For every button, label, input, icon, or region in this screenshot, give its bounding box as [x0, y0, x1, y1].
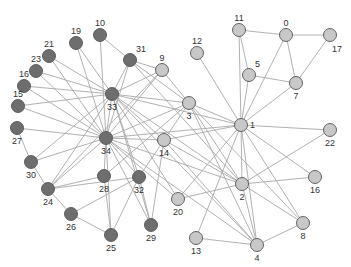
node-label-34: 34	[101, 146, 111, 156]
node-label-29: 29	[146, 233, 156, 243]
node-label-30: 30	[26, 170, 36, 180]
node-8[interactable]	[297, 217, 310, 230]
edge-15-33	[18, 94, 112, 106]
node-7[interactable]	[290, 77, 303, 90]
edge-5-7	[249, 75, 296, 83]
node-11[interactable]	[233, 24, 246, 37]
node-17[interactable]	[324, 29, 337, 42]
node-label-3: 3	[186, 111, 191, 121]
node-10[interactable]	[94, 29, 107, 42]
node-30[interactable]	[25, 156, 38, 169]
edge-12-1	[197, 53, 241, 125]
node-26[interactable]	[65, 208, 78, 221]
edge-4-33	[112, 94, 257, 245]
node-label-28: 28	[99, 184, 109, 194]
node-28[interactable]	[98, 170, 111, 183]
edge-1-8	[241, 125, 303, 223]
node-label-16: 16	[19, 69, 29, 79]
edge-2-16	[242, 177, 315, 184]
edge-11-1	[239, 30, 241, 125]
node-14[interactable]	[158, 134, 171, 147]
node-label-4: 4	[254, 253, 259, 263]
edge-3-34	[106, 103, 189, 138]
edge-0-7	[286, 35, 296, 83]
node-2[interactable]	[236, 178, 249, 191]
node-label-24: 24	[43, 197, 53, 207]
edge-30-33	[31, 94, 112, 162]
node-5[interactable]	[243, 69, 256, 82]
node-label-26: 26	[66, 222, 76, 232]
node-29[interactable]	[145, 219, 158, 232]
labels-layer: 0123457891112131416172022101519212316242…	[12, 13, 342, 263]
node-31[interactable]	[124, 54, 137, 67]
edge-9-33	[112, 70, 162, 94]
node-label-23: 23	[31, 54, 41, 64]
node-25[interactable]	[105, 229, 118, 242]
node-22[interactable]	[324, 124, 337, 137]
node-15[interactable]	[12, 100, 25, 113]
node-label-20: 20	[173, 207, 183, 217]
node-label-25: 25	[106, 243, 116, 253]
node-19[interactable]	[70, 37, 83, 50]
node-0[interactable]	[280, 29, 293, 42]
node-32[interactable]	[133, 171, 146, 184]
node-label-7: 7	[293, 91, 298, 101]
node-label-33: 33	[107, 102, 117, 112]
node-34[interactable]	[100, 132, 113, 145]
node-label-11: 11	[234, 13, 243, 23]
edge-19-33	[76, 43, 112, 94]
node-label-10: 10	[95, 18, 105, 28]
node-24[interactable]	[42, 183, 55, 196]
node-label-15: 15	[13, 89, 23, 99]
node-21[interactable]	[43, 50, 56, 63]
node-4[interactable]	[251, 239, 264, 252]
edge-7-1	[241, 83, 296, 125]
node-label-14: 14	[159, 148, 169, 158]
node-label-21: 21	[44, 39, 54, 49]
network-graph: 0123457891112131416172022101519212316242…	[0, 0, 351, 267]
node-16[interactable]	[309, 171, 322, 184]
node-13[interactable]	[190, 232, 203, 245]
edge-28-3	[104, 103, 189, 176]
edge-21-34	[49, 56, 106, 138]
node-23[interactable]	[30, 65, 43, 78]
edge-4-34	[106, 138, 257, 245]
node-label-32: 32	[134, 185, 144, 195]
node-label-13: 13	[191, 246, 201, 256]
node-33[interactable]	[106, 88, 119, 101]
nodes-layer	[11, 24, 337, 252]
node-label-5: 5	[255, 59, 260, 69]
node-label-16: 16	[310, 185, 320, 195]
node-20[interactable]	[172, 193, 185, 206]
edge-4-8	[257, 223, 303, 245]
node-label-12: 12	[192, 36, 202, 46]
edge-1-33	[112, 94, 241, 125]
node-label-9: 9	[159, 53, 164, 63]
node-27[interactable]	[11, 122, 24, 135]
node-label-27: 27	[12, 136, 22, 146]
node-label-31: 31	[136, 44, 146, 54]
edge-0-11	[239, 30, 286, 35]
node-12[interactable]	[191, 47, 204, 60]
node-label-1: 1	[250, 120, 255, 130]
edge-20-33	[112, 94, 178, 199]
edge-7-17	[296, 35, 330, 83]
node-1[interactable]	[235, 119, 248, 132]
node-label-0: 0	[283, 18, 288, 28]
node-3[interactable]	[183, 97, 196, 110]
node-label-19: 19	[71, 26, 81, 36]
node-9[interactable]	[156, 64, 169, 77]
node-label-8: 8	[300, 231, 305, 241]
node-label-2: 2	[239, 192, 244, 202]
node-label-22: 22	[325, 138, 335, 148]
node-label-17: 17	[332, 44, 342, 54]
